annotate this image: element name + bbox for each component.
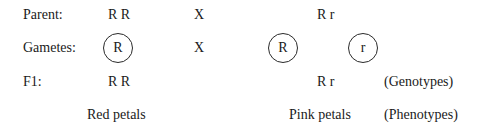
gamete-allele: R (113, 41, 122, 55)
gamete-circle-left-R: R (103, 33, 133, 63)
parent-cross-symbol: X (194, 7, 204, 23)
gamete-allele: r (361, 41, 366, 55)
f1-left-genotype: R R (108, 74, 130, 90)
f1-right-genotype: R r (317, 74, 335, 90)
parent-left-genotype: R R (108, 7, 130, 23)
parent-label: Parent: (23, 7, 63, 23)
genotypes-note: (Genotypes) (384, 74, 453, 90)
phenotype-right: Pink petals (289, 107, 351, 123)
gamete-circle-right-r: r (348, 33, 378, 63)
parent-right-genotype: R r (317, 7, 335, 23)
phenotype-left: Red petals (87, 107, 146, 123)
gametes-cross-symbol: X (194, 40, 204, 56)
f1-label: F1: (23, 74, 42, 90)
gamete-allele: R (278, 41, 287, 55)
gametes-label: Gametes: (23, 40, 76, 56)
gamete-circle-right-R: R (268, 33, 298, 63)
phenotypes-note: (Phenotypes) (384, 107, 458, 123)
